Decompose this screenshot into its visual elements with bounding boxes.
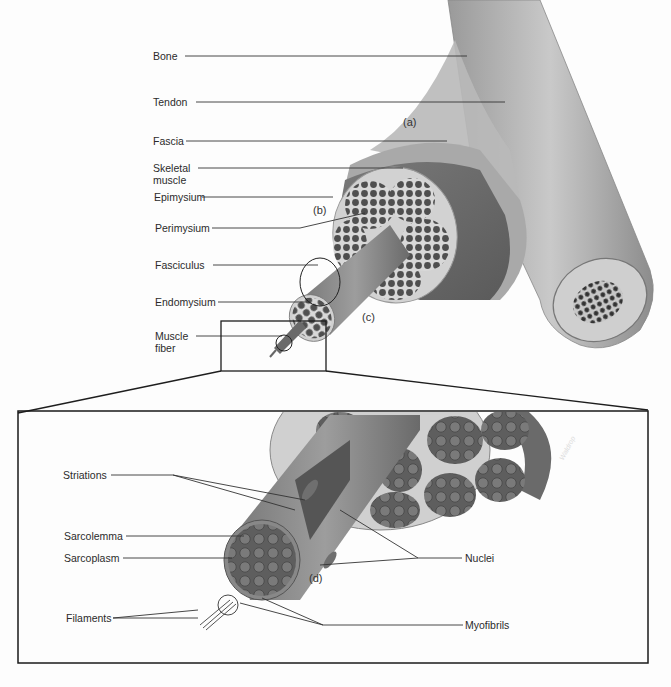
tag-c: (c) [362, 311, 375, 323]
label-myofibrils: Myofibrils [465, 619, 509, 631]
label-sarcoplasm: Sarcoplasm [64, 552, 119, 564]
label-striations: Striations [63, 469, 107, 481]
label-filaments: Filaments [66, 612, 112, 624]
label-muscle-fiber: Muscle fiber [155, 330, 201, 354]
muscle-anatomy-figure: Bone Tendon Fascia Skeletal muscle Epimy… [0, 0, 671, 687]
zoom-callout [18, 321, 648, 413]
label-sarcolemma: Sarcolemma [64, 530, 123, 542]
tag-b: (b) [313, 204, 326, 216]
tag-a: (a) [403, 116, 416, 128]
label-tendon: Tendon [153, 96, 187, 108]
muscle-fiber-shape [270, 320, 306, 357]
illustration [0, 0, 671, 687]
label-perimysium: Perimysium [155, 222, 210, 234]
label-epimysium: Epimysium [154, 191, 205, 203]
label-fascia: Fascia [153, 135, 184, 147]
label-nuclei: Nuclei [465, 552, 494, 564]
label-skeletal-muscle: Skeletal muscle [153, 162, 213, 186]
tag-d: (d) [309, 572, 322, 584]
label-fasciculus: Fasciculus [155, 259, 205, 271]
label-bone: Bone [153, 50, 178, 62]
label-endomysium: Endomysium [155, 296, 216, 308]
